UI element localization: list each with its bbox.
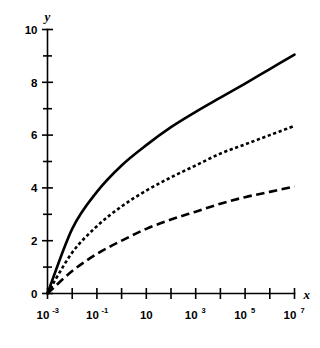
x-axis-tick-label-exponent: 3 <box>202 306 206 315</box>
axes <box>48 30 295 294</box>
y-axis-tick-label: 4 <box>31 182 38 194</box>
x-axis-tick-label: 10 <box>140 309 153 321</box>
x-axis-tick-label-mantissa: 10 <box>284 309 297 321</box>
y-axis-tick-label: 6 <box>31 129 37 141</box>
y-axis-tick-label: 2 <box>31 235 37 247</box>
y-axis-tick-label: 0 <box>31 288 37 300</box>
x-axis-tick-label: 10-1 <box>86 306 108 321</box>
x-axis-tick-label-exponent: -1 <box>102 306 109 315</box>
x-axis-tick-label-exponent: 5 <box>251 306 255 315</box>
data-curve-upper-curve <box>48 55 295 294</box>
x-axis-tick-label: 107 <box>284 306 305 321</box>
y-axis-tick-labels: 0246810 <box>25 24 38 300</box>
x-axis-tick-label-mantissa: 10 <box>234 309 247 321</box>
x-axis-tick-label-mantissa: 10 <box>140 309 153 321</box>
x-axis-label: x <box>303 287 311 302</box>
y-axis-tick-label: 10 <box>25 24 38 36</box>
y-axis-label: y <box>43 9 51 24</box>
x-axis-tick-label-mantissa: 10 <box>37 309 50 321</box>
x-axis-tick-label-mantissa: 10 <box>185 309 198 321</box>
x-axis-tick-label-exponent: 7 <box>300 306 304 315</box>
x-axis-tick-label: 10-3 <box>37 306 59 321</box>
x-axis-tick-label-exponent: -3 <box>52 306 59 315</box>
y-axis-tick-label: 8 <box>31 77 38 89</box>
data-curve-lower-curve <box>48 187 295 294</box>
x-axis-tick-label: 103 <box>185 306 206 321</box>
x-axis-tick-labels: 10-310-110103105107 <box>37 306 305 321</box>
chart-plot-area: 0246810 10-310-110103105107 x y <box>0 0 320 348</box>
data-curves <box>48 55 295 294</box>
x-axis-tick-label-mantissa: 10 <box>86 309 99 321</box>
chart-figure: 0246810 10-310-110103105107 x y <box>0 0 320 348</box>
x-axis-tick-label: 105 <box>234 306 255 321</box>
